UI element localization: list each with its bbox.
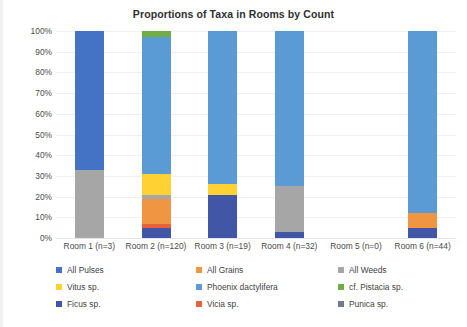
- legend-item[interactable]: Ficus sp.: [56, 300, 101, 308]
- legend-label: All Weeds: [349, 266, 387, 274]
- bar-segment[interactable]: [142, 228, 171, 238]
- bar-segment[interactable]: [142, 199, 171, 224]
- bar-segment[interactable]: [408, 31, 437, 213]
- bar-segment[interactable]: [275, 186, 304, 232]
- bar-stack: [208, 31, 237, 238]
- legend-label: Ficus sp.: [67, 300, 101, 308]
- bar-segment[interactable]: [75, 170, 104, 238]
- bar-segment[interactable]: [142, 174, 171, 195]
- y-axis-tick-label: 30%: [12, 171, 52, 181]
- legend-swatch-icon: [338, 267, 344, 273]
- legend-label: Vicia sp.: [207, 300, 239, 308]
- x-axis-tick-label: Room 3 (n=19): [189, 241, 256, 251]
- bar-group[interactable]: [275, 31, 304, 238]
- legend-item[interactable]: Vicia sp.: [196, 300, 239, 308]
- bar-segment[interactable]: [208, 184, 237, 194]
- legend-item[interactable]: Vitus sp.: [56, 283, 99, 291]
- y-axis-tick-label: 80%: [12, 67, 52, 77]
- legend-swatch-icon: [338, 301, 344, 307]
- y-axis-tick-label: 90%: [12, 47, 52, 57]
- legend-item[interactable]: cf. Pistacia sp.: [338, 283, 403, 291]
- y-axis-tick-label: 20%: [12, 192, 52, 202]
- legend-item[interactable]: Punica sp.: [338, 300, 388, 308]
- bars-layer: [56, 31, 456, 238]
- y-axis-tick-label: 70%: [12, 88, 52, 98]
- bar-segment[interactable]: [142, 31, 171, 37]
- legend-swatch-icon: [196, 301, 202, 307]
- y-axis-tick-label: 60%: [12, 109, 52, 119]
- legend-item[interactable]: All Pulses: [56, 266, 104, 274]
- legend-swatch-icon: [196, 267, 202, 273]
- bar-stack: [275, 31, 304, 238]
- x-axis-tick-label: Room 6 (n=44): [389, 241, 456, 251]
- legend-item[interactable]: Phoenix dactylifera: [196, 283, 278, 291]
- legend-swatch-icon: [338, 284, 344, 290]
- bar-group[interactable]: [208, 31, 237, 238]
- legend-label: Punica sp.: [349, 300, 388, 308]
- legend-swatch-icon: [56, 284, 62, 290]
- y-axis: 100%90%80%70%60%50%40%30%20%10%0%: [12, 31, 52, 238]
- bar-group[interactable]: [342, 31, 371, 238]
- legend-item[interactable]: All Grains: [196, 266, 243, 274]
- x-axis-tick-label: Room 2 (n=120): [123, 241, 190, 251]
- y-axis-tick-label: 0%: [12, 233, 52, 243]
- bar-segment[interactable]: [142, 195, 171, 199]
- page-edge-shading: [0, 0, 3, 327]
- chart-legend: All PulsesAll GrainsAll WeedsVitus sp.Ph…: [56, 266, 456, 314]
- gridline: [56, 238, 456, 239]
- bar-segment[interactable]: [142, 224, 171, 228]
- bar-segment[interactable]: [208, 31, 237, 184]
- bar-stack: [75, 31, 104, 238]
- chart-container: Proportions of Taxa in Rooms by Count 10…: [0, 0, 467, 327]
- legend-swatch-icon: [196, 284, 202, 290]
- legend-swatch-icon: [56, 267, 62, 273]
- bar-segment[interactable]: [142, 37, 171, 174]
- y-axis-tick-label: 40%: [12, 150, 52, 160]
- bar-segment[interactable]: [408, 228, 437, 238]
- bar-group[interactable]: [142, 31, 171, 238]
- legend-label: All Pulses: [67, 266, 104, 274]
- bar-segment[interactable]: [408, 213, 437, 227]
- legend-label: All Grains: [207, 266, 243, 274]
- x-axis-tick-label: Room 1 (n=3): [56, 241, 123, 251]
- bar-stack: [142, 31, 171, 238]
- x-axis-tick-label: Room 4 (n=32): [256, 241, 323, 251]
- legend-label: Vitus sp.: [67, 283, 99, 291]
- plot-area: [56, 31, 456, 238]
- y-axis-tick-label: 50%: [12, 130, 52, 140]
- x-axis-tick-label: Room 5 (n=0): [323, 241, 390, 251]
- y-axis-tick-label: 100%: [12, 26, 52, 36]
- y-axis-tick-label: 10%: [12, 212, 52, 222]
- legend-label: Phoenix dactylifera: [207, 283, 278, 291]
- bar-segment[interactable]: [75, 31, 104, 170]
- legend-item[interactable]: All Weeds: [338, 266, 387, 274]
- x-axis: Room 1 (n=3)Room 2 (n=120)Room 3 (n=19)R…: [56, 241, 456, 255]
- bar-stack: [342, 31, 371, 238]
- bar-segment[interactable]: [208, 195, 237, 238]
- bar-group[interactable]: [75, 31, 104, 238]
- chart-title: Proportions of Taxa in Rooms by Count: [0, 8, 467, 20]
- bar-segment[interactable]: [275, 232, 304, 238]
- legend-swatch-icon: [56, 301, 62, 307]
- bar-stack: [408, 31, 437, 238]
- bar-segment[interactable]: [275, 31, 304, 186]
- bar-group[interactable]: [408, 31, 437, 238]
- legend-label: cf. Pistacia sp.: [349, 283, 403, 291]
